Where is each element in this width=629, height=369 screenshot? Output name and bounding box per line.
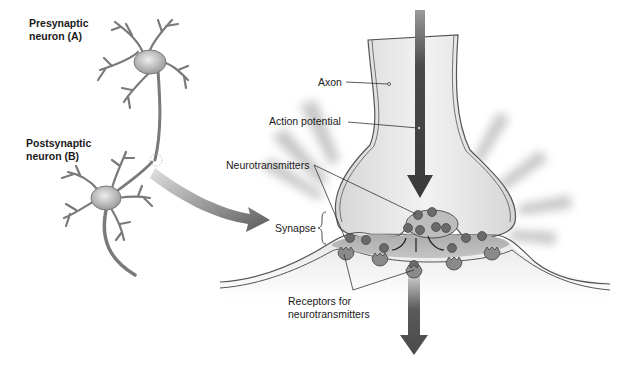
presynaptic-neuron xyxy=(98,20,188,160)
synapse-label: Synapse xyxy=(275,222,316,234)
receptors-label-2: neurotransmitters xyxy=(288,308,370,320)
postsynaptic-soma xyxy=(91,186,121,210)
synapse-diagram: Presynaptic neuron (A) Postsynaptic neur… xyxy=(0,0,629,369)
presynaptic-soma xyxy=(134,50,166,74)
action-potential-label: Action potential xyxy=(269,115,341,127)
axon-label: Axon xyxy=(318,76,342,88)
postsynaptic-label-1: Postsynaptic xyxy=(26,137,91,149)
postsynaptic-label-2: neuron (B) xyxy=(26,150,79,162)
synapse-brace xyxy=(318,212,326,244)
presynaptic-label-1: Presynaptic xyxy=(29,17,89,29)
postsynaptic-neuron xyxy=(62,152,152,275)
zoom-arrow xyxy=(150,168,270,232)
neurotransmitters-label: Neurotransmitters xyxy=(226,159,309,171)
presynaptic-label-2: neuron (A) xyxy=(29,30,82,42)
receptors-label-1: Receptors for xyxy=(288,295,351,307)
